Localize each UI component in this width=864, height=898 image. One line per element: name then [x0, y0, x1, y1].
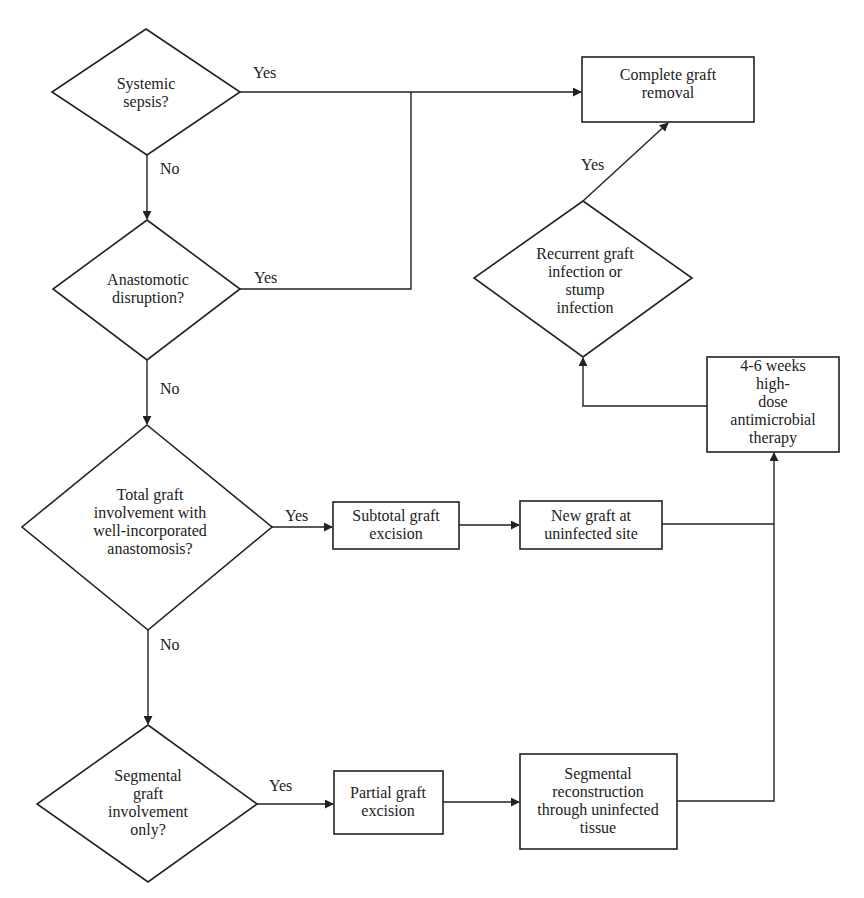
- edge-label-recurrent-yes: Yes: [581, 156, 604, 174]
- node-label-new-graft: New graft at uninfected site: [544, 507, 638, 543]
- node-label-partial-graft-excision: Partial graft excision: [350, 784, 426, 820]
- edge-label-total-yes: Yes: [285, 507, 308, 525]
- edge-label-disruption-no: No: [160, 380, 180, 398]
- edge-label-sepsis-yes: Yes: [253, 64, 276, 82]
- node-label-total-graft-involvement: Total graft involvement with well-incorp…: [93, 486, 207, 558]
- edge-label-segmental-yes: Yes: [269, 777, 292, 795]
- node-label-systemic-sepsis: Systemic sepsis?: [117, 75, 176, 111]
- edge-label-disruption-yes: Yes: [254, 269, 277, 287]
- node-label-segmental-reconstruction: Segmental reconstruction through uninfec…: [537, 765, 658, 837]
- node-label-segmental-graft-involvement: Segmental graft involvement only?: [108, 767, 188, 839]
- edge-therapy-recurrent: [583, 358, 707, 406]
- node-label-complete-graft-removal: Complete graft removal: [620, 66, 716, 102]
- node-label-anastomotic-disruption: Anastomotic disruption?: [107, 271, 189, 307]
- node-label-recurrent-infection: Recurrent graft infection or stump infec…: [536, 245, 633, 317]
- flowchart-canvas: [0, 0, 864, 898]
- edge-label-total-no: No: [160, 636, 180, 654]
- edge-label-sepsis-no: No: [160, 160, 180, 178]
- connectors: [147, 92, 774, 804]
- edge-recon-therapy: [677, 453, 774, 801]
- node-label-antimicrobial-therapy: 4-6 weeks high- dose antimicrobial thera…: [728, 357, 819, 447]
- node-label-subtotal-graft-excision: Subtotal graft excision: [352, 507, 440, 543]
- edge-disruption-yes: [240, 92, 411, 289]
